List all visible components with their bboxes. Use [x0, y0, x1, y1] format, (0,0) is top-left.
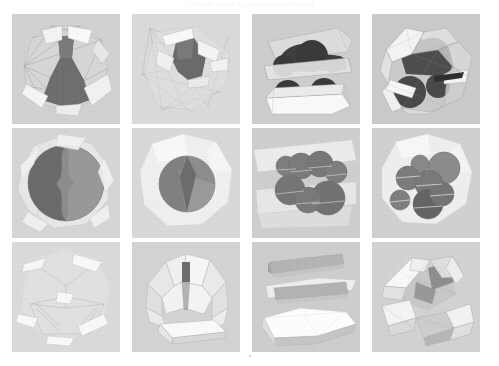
render-triangulated-sphere-split: [12, 128, 120, 238]
panel-thin-sliver-wireframe[interactable]: [12, 242, 120, 352]
panel-single-sphere-primitive[interactable]: [132, 128, 240, 238]
render-triangulated-anvil-mesh: [12, 14, 120, 124]
render-thin-sliver-wireframe: [12, 242, 120, 352]
render-six-sphere-cluster: [252, 128, 360, 238]
render-faceted-hull-dark-core: [372, 14, 480, 124]
panel-stacked-flat-slabs[interactable]: [252, 242, 360, 352]
panel-triangulated-anvil-mesh[interactable]: [12, 14, 120, 124]
render-sparse-wireframe-blob: [132, 14, 240, 124]
render-car-silhouette-slabs: [252, 14, 360, 124]
panel-wedge-pair-hull[interactable]: [372, 242, 480, 352]
render-mixed-sphere-cluster: [372, 128, 480, 238]
render-wedge-pair-hull: [372, 242, 480, 352]
panel-six-sphere-cluster[interactable]: [252, 128, 360, 238]
panel-pale-dome-hull[interactable]: [132, 242, 240, 352]
figure-page: Collision Mesh Approximation Results: [0, 0, 499, 366]
panel-car-silhouette-slabs[interactable]: [252, 14, 360, 124]
panel-faceted-hull-dark-core[interactable]: [372, 14, 480, 124]
render-pale-dome-hull: [132, 242, 240, 352]
panel-mixed-sphere-cluster[interactable]: [372, 128, 480, 238]
footer-dot: [249, 355, 251, 357]
panel-triangulated-sphere-split[interactable]: [12, 128, 120, 238]
render-single-sphere-primitive: [132, 128, 240, 238]
panel-grid: [12, 14, 488, 352]
panel-sparse-wireframe-blob[interactable]: [132, 14, 240, 124]
header-caption: Collision Mesh Approximation Results: [0, 0, 499, 10]
render-stacked-flat-slabs: [252, 242, 360, 352]
